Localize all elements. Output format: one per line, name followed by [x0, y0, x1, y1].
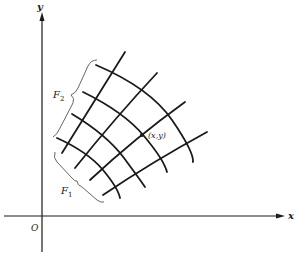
point-marker	[140, 133, 144, 137]
line-curve-2	[75, 73, 157, 168]
x-axis-label: x	[287, 210, 295, 221]
point-label: (x,y)	[148, 131, 166, 140]
y-axis-label: y	[36, 1, 44, 12]
origin-label: O	[31, 223, 39, 233]
curve-family-lines	[62, 52, 207, 195]
f1-label: F1	[60, 185, 72, 199]
f1-label-subscript: 1	[68, 191, 72, 199]
f2-label-subscript: 2	[60, 95, 64, 103]
line-curve-1	[62, 52, 125, 153]
y-axis-arrow-icon	[40, 12, 45, 21]
curve-family-arcs	[57, 65, 193, 198]
x-axis-arrow-icon	[276, 214, 285, 219]
curvilinear-grid-diagram: y x O (x,y) F2 F1	[0, 0, 300, 260]
f2-label: F2	[52, 89, 64, 103]
line-curve-4	[103, 132, 207, 195]
line-curve-3	[90, 102, 185, 180]
